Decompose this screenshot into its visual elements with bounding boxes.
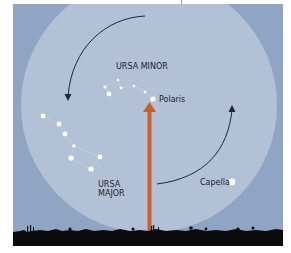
sky-diagram: URSA MINOR Polaris URSA MAJOR Capella <box>13 4 283 246</box>
label-capella: Capella <box>200 178 230 187</box>
label-ursa-major-line1: URSA <box>98 180 121 189</box>
label-polaris: Polaris <box>159 95 185 104</box>
polaris-star <box>150 96 155 101</box>
label-ursa-minor: URSA MINOR <box>116 62 168 71</box>
label-ursa-major-line2: MAJOR <box>98 189 125 198</box>
